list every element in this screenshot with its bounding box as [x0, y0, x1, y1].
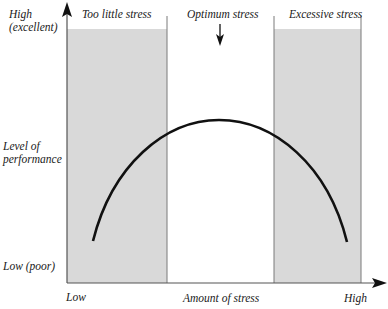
too-little-stress-zone — [67, 29, 167, 283]
excessive-stress-zone — [274, 29, 361, 283]
y-axis-title-line2: performance — [3, 153, 62, 166]
y-high-label-line2: (excellent) — [9, 21, 58, 34]
x-low-label: Low — [66, 291, 86, 304]
y-high-label-line1: High — [9, 8, 32, 21]
zone-label-optimum: Optimum stress — [187, 8, 258, 21]
y-low-label: Low (poor) — [3, 260, 55, 273]
zone-label-too-little: Too little stress — [82, 8, 151, 21]
zone-label-excessive: Excessive stress — [289, 8, 362, 21]
x-high-label: High — [344, 292, 367, 305]
y-axis-title-line1: Level of — [3, 140, 40, 153]
x-axis-title: Amount of stress — [183, 292, 259, 305]
